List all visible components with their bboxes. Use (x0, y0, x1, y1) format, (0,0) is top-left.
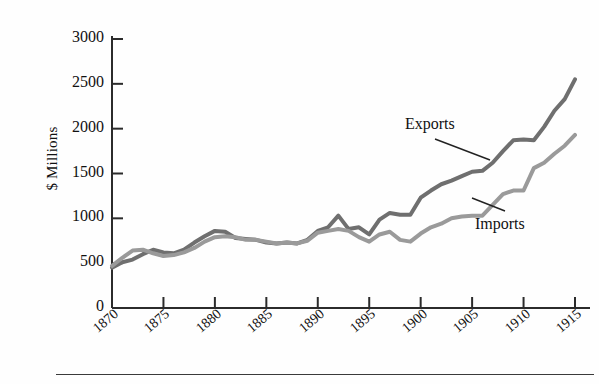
exports-label-leader (435, 139, 490, 160)
y-tick-label: 3000 (46, 28, 104, 46)
chart-axes (112, 36, 590, 308)
y-tick-label: 1500 (46, 163, 104, 181)
y-tick-label: 500 (46, 252, 104, 270)
imports-label: Imports (475, 215, 525, 233)
y-tick-label: 1000 (46, 207, 104, 225)
exports-label: Exports (405, 115, 455, 133)
y-tick-label: 0 (46, 297, 104, 315)
data-series-group (112, 79, 575, 267)
chart-figure: $ Millions 050010001500200025003000 1870… (0, 0, 599, 384)
x-axis-ticks (112, 297, 575, 308)
y-tick-label: 2500 (46, 73, 104, 91)
footer-rule (56, 374, 594, 375)
series-line-imports (112, 135, 575, 266)
series-line-exports (112, 79, 575, 267)
y-tick-label: 2000 (46, 118, 104, 136)
y-axis-ticks (112, 39, 123, 263)
